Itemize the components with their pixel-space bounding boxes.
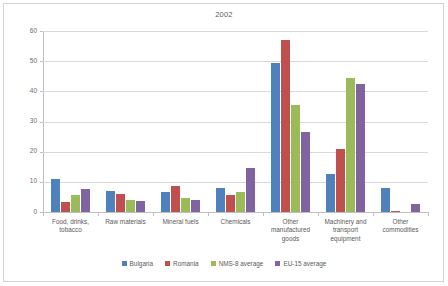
x-tick-mark [43,212,44,216]
bar-group [153,31,208,212]
bar[interactable] [391,211,400,212]
chart-container: 2002 0102030405060 Food, drinks,tobaccoR… [0,0,448,286]
bar[interactable] [381,188,390,212]
y-tick-label-50: 50 [15,58,37,65]
bar-group [98,31,153,212]
y-tick-mark-20 [40,152,43,153]
bar[interactable] [411,204,420,212]
category-label: Machinery andtransportequipment [318,218,373,243]
bar[interactable] [326,174,335,212]
bar[interactable] [291,105,300,212]
category-label-line: transport [318,226,373,234]
y-tick-mark-40 [40,91,43,92]
x-tick-mark [98,212,99,216]
bar[interactable] [126,200,135,212]
category-label-line: Raw materials [98,218,153,226]
bar[interactable] [161,192,170,212]
legend-item[interactable]: NMS-8 average [211,260,264,267]
x-tick-mark [428,212,429,216]
category-label: Raw materials [98,218,153,226]
bar[interactable] [236,192,245,212]
category-label: Othercommodities [373,218,428,235]
plot-area [43,31,428,212]
legend-swatch-icon [275,261,280,266]
x-tick-mark [208,212,209,216]
bar[interactable] [301,132,310,212]
y-tick-label-60: 60 [15,28,37,35]
legend-item[interactable]: Romania [165,260,199,267]
category-label-line: Food, drinks, [43,218,98,226]
category-label-line: Mineral fuels [153,218,208,226]
category-label: Othermanufacturedgoods [263,218,318,243]
bar-group [373,31,428,212]
x-tick-mark [153,212,154,216]
legend-item[interactable]: Bulgaria [122,260,153,267]
bar[interactable] [61,202,70,212]
category-label-line: Machinery and [318,218,373,226]
bar[interactable] [106,191,115,212]
category-label-line: commodities [373,226,428,234]
legend-swatch-icon [211,261,216,266]
bar-group [318,31,373,212]
y-tick-label-40: 40 [15,88,37,95]
x-tick-mark [373,212,374,216]
legend-label: Romania [173,260,199,267]
legend-label: Bulgaria [130,260,153,267]
legend-swatch-icon [122,261,127,266]
y-tick-mark-50 [40,61,43,62]
bar[interactable] [181,198,190,212]
legend-item[interactable]: EU-15 average [275,260,326,267]
category-label: Food, drinks,tobacco [43,218,98,235]
bar[interactable] [191,200,200,212]
category-label-line: goods [263,235,318,243]
category-label-line: Other [263,218,318,226]
bar[interactable] [51,179,60,212]
y-tick-mark-30 [40,122,43,123]
y-tick-label-30: 30 [15,118,37,125]
bar[interactable] [271,63,280,212]
category-label-line: Other [373,218,428,226]
bar[interactable] [171,186,180,212]
bar-group [263,31,318,212]
bar-group [43,31,98,212]
category-label: Mineral fuels [153,218,208,226]
bar[interactable] [281,40,290,212]
x-tick-mark [263,212,264,216]
legend-label: EU-15 average [283,260,326,267]
bar[interactable] [356,84,365,212]
bar[interactable] [216,188,225,212]
y-tick-label-0: 0 [15,209,37,216]
y-tick-label-20: 20 [15,148,37,155]
bar[interactable] [246,168,255,212]
category-label-line: manufactured [263,226,318,234]
y-tick-mark-60 [40,31,43,32]
x-axis-line [43,212,428,213]
category-label-line: Chemicals [208,218,263,226]
bar-group [208,31,263,212]
category-label: Chemicals [208,218,263,226]
chart-title: 2002 [0,10,448,19]
x-tick-mark [318,212,319,216]
bar[interactable] [71,195,80,212]
y-tick-mark-10 [40,182,43,183]
bar[interactable] [136,201,145,212]
y-tick-label-10: 10 [15,178,37,185]
category-label-line: equipment [318,235,373,243]
bar[interactable] [116,194,125,212]
bar[interactable] [346,78,355,212]
category-label-line: tobacco [43,226,98,234]
y-tick-mark-0 [40,212,43,213]
legend-swatch-icon [165,261,170,266]
bar[interactable] [336,149,345,212]
bar[interactable] [226,195,235,212]
chart-legend: BulgariaRomaniaNMS-8 averageEU-15 averag… [0,260,448,267]
bar[interactable] [81,189,90,212]
legend-label: NMS-8 average [219,260,264,267]
